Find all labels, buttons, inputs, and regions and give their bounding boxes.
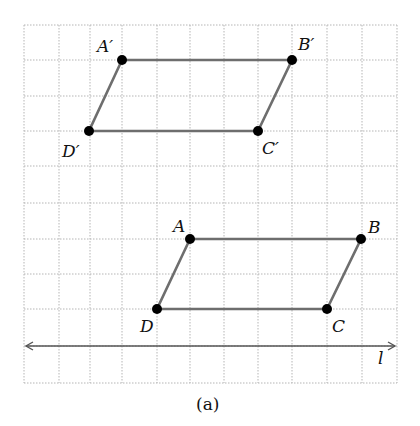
vertex-label-c: C (332, 316, 345, 336)
vertex-point (322, 304, 332, 314)
reflection-diagram: l A′ B′ C′ D′ A B C D (a) (0, 0, 420, 426)
vertex-point (253, 126, 263, 136)
figure-caption: (a) (196, 394, 219, 414)
vertex-label-a-prime: A′ (95, 36, 113, 56)
vertex-point (117, 55, 127, 65)
vertex-point (84, 126, 94, 136)
vertex-point (152, 304, 162, 314)
line-l-label: l (378, 348, 383, 368)
vertex-point (185, 234, 195, 244)
vertex-point (287, 55, 297, 65)
vertex-label-b-prime: B′ (297, 34, 314, 54)
vertex-label-d-prime: D′ (61, 141, 80, 161)
vertex-point (356, 234, 366, 244)
vertex-label-c-prime: C′ (262, 138, 279, 158)
vertex-label-d: D (139, 316, 154, 336)
vertex-label-b: B (367, 217, 381, 237)
vertex-label-a: A (171, 216, 185, 236)
